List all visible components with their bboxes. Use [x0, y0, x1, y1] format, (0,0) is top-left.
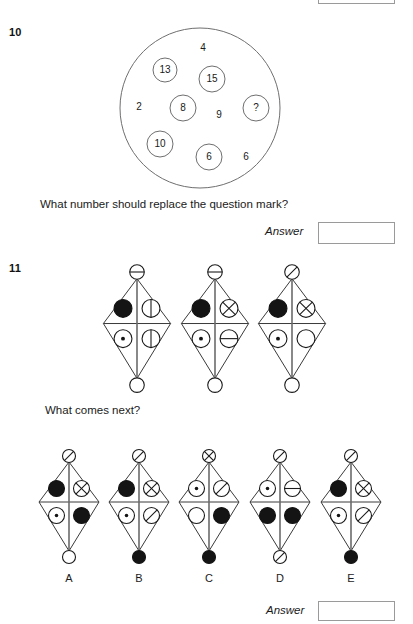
question-11-prompt: What comes next? [45, 404, 140, 416]
option-figure-D [250, 450, 310, 564]
loose-number-6-3: 6 [243, 151, 249, 162]
question-11-sequence [0, 258, 413, 398]
option-figure-C-node-left [189, 481, 205, 497]
sequence-figure-2-node-lower-left [192, 330, 210, 348]
sequence-figure-2-node-left [192, 299, 210, 317]
option-figure-E-node-lower-left [331, 508, 347, 524]
loose-number-9-2: 9 [216, 109, 222, 120]
svg-text:?: ? [253, 102, 259, 113]
option-figure-A-node-left [49, 481, 65, 497]
option-figure-D-node-left [260, 481, 276, 497]
sequence-figure-3-node-lower-right [297, 330, 315, 348]
option-figure-A-node-bottom [63, 551, 76, 564]
option-figure-E-node-left [331, 481, 347, 497]
sequence-figure-3-node-right [297, 299, 315, 317]
svg-text:6: 6 [206, 151, 212, 162]
sequence-figure-3 [258, 265, 325, 393]
option-figure-B-node-lower-left [119, 508, 135, 524]
option-figure-D-node-lower-left [260, 508, 276, 524]
option-figure-B-node-left [119, 481, 135, 497]
sequence-figure-1-node-lower-left [114, 330, 132, 348]
option-figure-C-node-lower-left [189, 508, 205, 524]
option-figure-C-node-bottom [203, 551, 216, 564]
question-10-diagram: 429613158?106 [0, 0, 413, 200]
option-figure-B-node-bottom [133, 551, 146, 564]
option-figure-C [179, 450, 239, 564]
option-label-C[interactable]: C [199, 572, 219, 584]
sequence-figure-3-node-bottom [285, 378, 300, 393]
circled-number-13: 13 [153, 58, 177, 82]
sequence-figure-3-node-lower-left [269, 330, 287, 348]
question-11-answer-box[interactable] [318, 601, 395, 621]
option-figure-E [321, 450, 381, 564]
option-figure-A-node-top [63, 450, 76, 463]
circled-number-6: 6 [196, 144, 222, 170]
sequence-figure-1-node-left [114, 299, 132, 317]
question-11-options [0, 440, 413, 570]
option-figure-D-node-top [274, 450, 287, 463]
circled-number-8: 8 [170, 95, 196, 121]
question-10-answer-box[interactable] [318, 222, 395, 244]
sequence-figure-1-node-bottom [130, 378, 145, 393]
question-11-answer-label: Answer [266, 604, 304, 616]
option-figure-D-node-right [285, 481, 301, 497]
option-figure-A-node-right [74, 481, 90, 497]
sequence-figure-3-node-top [285, 265, 300, 280]
option-figure-B [109, 450, 169, 564]
option-figure-E-node-lower-right [356, 508, 372, 524]
option-figure-D-node-bottom [274, 551, 287, 564]
svg-text:8: 8 [180, 102, 186, 113]
circled-number-10: 10 [147, 131, 173, 157]
loose-number-4-0: 4 [200, 42, 206, 53]
sequence-figure-2-node-lower-right [220, 330, 238, 348]
option-figure-B-node-lower-right [144, 508, 160, 524]
circled-number-question-mark: ? [243, 95, 269, 121]
sequence-figure-1 [103, 265, 170, 393]
option-label-B[interactable]: B [129, 572, 149, 584]
loose-number-2-1: 2 [136, 101, 142, 112]
sequence-figure-1-node-lower-right [142, 330, 160, 348]
option-figure-A [39, 450, 99, 564]
svg-text:10: 10 [154, 138, 166, 149]
sequence-figure-2 [181, 265, 248, 393]
option-figure-E-node-bottom [345, 551, 358, 564]
option-figure-A-node-lower-right [74, 508, 90, 524]
option-figure-E-node-top [345, 450, 358, 463]
option-figure-B-node-right [144, 481, 160, 497]
option-label-A[interactable]: A [59, 572, 79, 584]
sequence-figure-3-node-left [269, 299, 287, 317]
option-figure-E-node-right [356, 481, 372, 497]
sequence-figure-1-node-top [130, 265, 145, 280]
sequence-figure-2-node-bottom [208, 378, 223, 393]
option-figure-C-node-top [203, 450, 216, 463]
option-figure-C-node-right [214, 481, 230, 497]
option-figure-B-node-top [133, 450, 146, 463]
option-figure-A-node-lower-left [49, 508, 65, 524]
sequence-figure-1-node-right [142, 299, 160, 317]
svg-text:15: 15 [206, 73, 218, 84]
option-label-E[interactable]: E [341, 572, 361, 584]
option-label-D[interactable]: D [270, 572, 290, 584]
puzzle-page: 10 429613158?106 What number should repl… [0, 0, 413, 624]
svg-text:13: 13 [159, 64, 171, 75]
question-10-prompt: What number should replace the question … [40, 198, 288, 210]
question-10-answer-label: Answer [265, 225, 303, 237]
option-figure-C-node-lower-right [214, 508, 230, 524]
option-figure-D-node-lower-right [285, 508, 301, 524]
sequence-figure-2-node-top [208, 265, 223, 280]
circled-number-15: 15 [199, 66, 225, 92]
sequence-figure-2-node-right [220, 299, 238, 317]
